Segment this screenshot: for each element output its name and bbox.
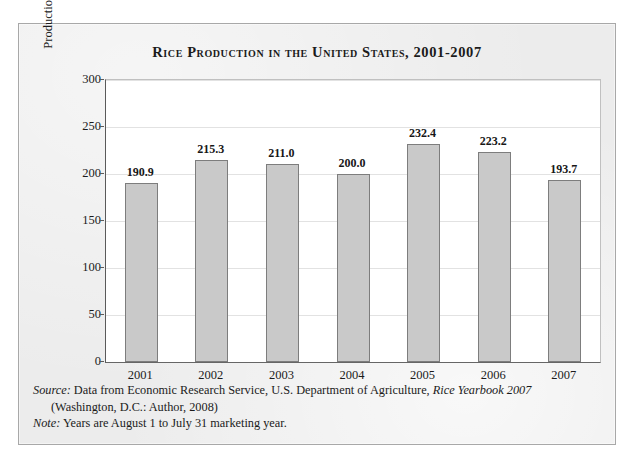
y-axis-tickmark (99, 220, 104, 221)
gridline (106, 80, 600, 81)
y-axis-tickmark (99, 126, 104, 127)
y-axis-tickmark (99, 173, 104, 174)
bar-2003 (266, 164, 299, 362)
gridline (106, 127, 600, 128)
bar-value-label-2001: 190.9 (110, 165, 170, 180)
x-axis-tick-label-2004: 2004 (322, 368, 382, 383)
bar-value-label-2004: 200.0 (322, 156, 382, 171)
note-body: Years are August 1 to July 31 marketing … (60, 416, 286, 430)
x-axis-tick-label-2002: 2002 (181, 368, 241, 383)
bar-2001 (125, 183, 158, 362)
chart-title: Rice Production in the United States, 20… (19, 44, 615, 61)
bar-value-label-2005: 232.4 (393, 126, 453, 141)
bar-value-label-2006: 223.2 (463, 134, 523, 149)
y-axis-tick-label: 150 (57, 213, 101, 228)
plot-area (105, 79, 601, 363)
y-axis-tick-label: 50 (57, 307, 101, 322)
bar-2004 (337, 174, 370, 362)
x-axis-tick-label-2003: 2003 (251, 368, 311, 383)
y-axis-tick-labels: 050100150200250300 (53, 24, 101, 444)
bar-value-label-2002: 215.3 (181, 142, 241, 157)
note-line: Note: Years are August 1 to July 31 mark… (33, 415, 608, 432)
figure-notes: Source: Data from Economic Research Serv… (33, 382, 608, 432)
source-label: Source: (33, 383, 71, 397)
y-axis-tickmark (99, 267, 104, 268)
source-body: Data from Economic Research Service, U.S… (71, 383, 433, 397)
y-axis-tickmark (99, 79, 104, 80)
note-label: Note: (33, 416, 60, 430)
bar-2006 (478, 152, 511, 362)
x-axis-tick-label-2007: 2007 (534, 368, 594, 383)
source-line-2: (Washington, D.C.: Author, 2008) (33, 399, 608, 416)
x-axis-tick-label-2006: 2006 (463, 368, 523, 383)
y-axis-tickmark (99, 361, 104, 362)
x-axis-tick-label-2001: 2001 (110, 368, 170, 383)
y-axis-tick-label: 0 (57, 354, 101, 369)
y-axis-tick-label: 100 (57, 260, 101, 275)
x-axis-tick-label-2005: 2005 (393, 368, 453, 383)
bar-2002 (195, 160, 228, 362)
bar-2005 (407, 144, 440, 362)
figure-frame: Rice Production in the United States, 20… (18, 23, 616, 445)
y-axis-tickmark (99, 314, 104, 315)
source-publication-title: Rice Yearbook 2007 (433, 383, 532, 397)
y-axis-tick-label: 200 (57, 166, 101, 181)
bar-value-label-2007: 193.7 (534, 162, 594, 177)
source-line-1: Source: Data from Economic Research Serv… (33, 382, 608, 399)
y-axis-tick-label: 300 (57, 72, 101, 87)
bar-2007 (548, 180, 581, 362)
bar-value-label-2003: 211.0 (251, 146, 311, 161)
y-axis-tick-label: 250 (57, 119, 101, 134)
